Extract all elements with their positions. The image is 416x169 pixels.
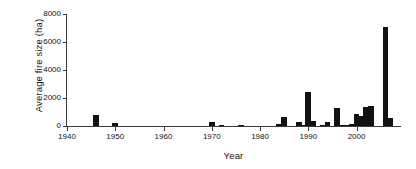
bar-1946 [93, 115, 99, 126]
y-tick-2000: 2000 [67, 98, 68, 99]
y-tick-8000: 8000 [67, 14, 68, 15]
bar-2003 [368, 106, 374, 126]
y-tick-label: 4000 [43, 65, 61, 74]
x-tick-label: 1950 [99, 132, 131, 141]
y-axis-title: Average fire size (ha) [33, 0, 44, 146]
y-tick-mark [63, 70, 67, 71]
x-tick-1970: 1970 [212, 127, 213, 128]
x-tick-mark [308, 127, 309, 131]
bar-1970 [209, 122, 215, 126]
x-tick-1940: 1940 [67, 127, 68, 128]
bar-2007 [387, 118, 393, 126]
bar-1996 [334, 108, 340, 126]
x-tick-1950: 1950 [115, 127, 116, 128]
x-tick-mark [67, 127, 68, 131]
x-tick-label: 1940 [51, 132, 83, 141]
y-tick-label: 6000 [43, 37, 61, 46]
bar-1994 [325, 122, 331, 126]
x-axis-title: Year [67, 150, 400, 161]
x-tick-label: 1970 [196, 132, 228, 141]
x-tick-label: 1980 [244, 132, 276, 141]
x-tick-1960: 1960 [164, 127, 165, 128]
y-tick-4000: 4000 [67, 70, 68, 71]
x-tick-label: 2000 [341, 132, 373, 141]
x-tick-mark [260, 127, 261, 131]
y-tick-6000: 6000 [67, 42, 68, 43]
y-tick-mark [63, 14, 67, 15]
x-tick-mark [115, 127, 116, 131]
bar-1991 [310, 121, 316, 126]
x-tick-label: 1990 [292, 132, 324, 141]
y-tick-label: 8000 [43, 9, 61, 18]
bar-1976 [238, 125, 244, 126]
bar-1950 [112, 123, 118, 126]
x-tick-1990: 1990 [308, 127, 309, 128]
x-tick-2000: 2000 [357, 127, 358, 128]
x-axis-line [66, 126, 401, 127]
plot-area: 02000400060008000 [67, 14, 400, 126]
y-tick-mark [63, 42, 67, 43]
y-tick-label: 0 [57, 121, 61, 130]
bar-2006 [383, 27, 389, 126]
fire-size-bar-chart: Average fire size (ha) 02000400060008000… [0, 0, 416, 169]
y-tick-label: 2000 [43, 93, 61, 102]
bar-1972 [219, 125, 225, 126]
x-tick-mark [164, 127, 165, 131]
x-tick-label: 1960 [148, 132, 180, 141]
x-tick-mark [212, 127, 213, 131]
y-tick-mark [63, 98, 67, 99]
x-tick-1980: 1980 [260, 127, 261, 128]
bar-1985 [281, 117, 287, 126]
x-tick-mark [357, 127, 358, 131]
